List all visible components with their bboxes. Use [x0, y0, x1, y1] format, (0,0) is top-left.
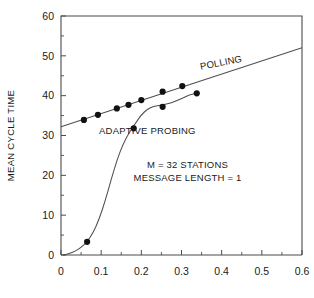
adaptive-probing-label: ADAPTIVE PROBING: [99, 125, 196, 136]
data-point-adaptive-probing: [160, 104, 166, 110]
x-tick-label: 0.4: [214, 265, 229, 277]
x-tick-label: 0.6: [295, 265, 310, 277]
x-tick-label: 0.5: [255, 265, 270, 277]
y-tick-label: 20: [42, 169, 54, 181]
data-point-polling: [95, 112, 101, 118]
stations-note: M = 32 STATIONS: [147, 159, 228, 170]
y-tick-label: 30: [42, 129, 54, 141]
data-point-polling: [125, 102, 131, 108]
data-point-polling: [160, 89, 166, 95]
y-tick-label: 0: [48, 249, 54, 261]
data-point-adaptive-probing: [84, 239, 90, 245]
x-tick-label: 0: [58, 265, 64, 277]
chart-figure: 010203040506000.10.20.30.40.50.6MEAN CYC…: [0, 0, 314, 298]
y-tick-label: 60: [42, 10, 54, 22]
x-tick-label: 0.1: [94, 265, 109, 277]
data-point-polling: [114, 105, 120, 111]
data-point-polling: [179, 83, 185, 89]
data-point-polling: [81, 117, 87, 123]
y-tick-label: 50: [42, 50, 54, 62]
message-length-note: MESSAGE LENGTH = 1: [134, 172, 242, 183]
y-axis-title: MEAN CYCLE TIME: [5, 90, 16, 181]
y-tick-label: 10: [42, 209, 54, 221]
x-tick-label: 0.3: [174, 265, 189, 277]
data-point-adaptive-probing: [194, 90, 200, 96]
data-point-polling: [138, 97, 144, 103]
y-tick-label: 40: [42, 89, 54, 101]
x-tick-label: 0.2: [134, 265, 149, 277]
